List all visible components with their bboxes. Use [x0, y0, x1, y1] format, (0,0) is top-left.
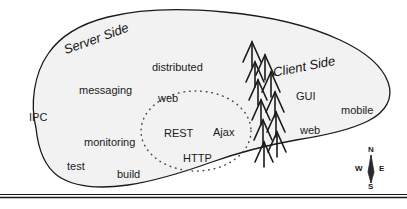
- term-gui: GUI: [296, 91, 316, 102]
- term-web-shared: web: [158, 93, 178, 104]
- term-monitoring: monitoring: [84, 137, 135, 148]
- compass-label-west: W: [355, 165, 363, 173]
- term-rest: REST: [164, 128, 193, 139]
- term-http: HTTP: [183, 153, 212, 164]
- term-test: test: [67, 161, 85, 172]
- term-build: build: [117, 169, 140, 180]
- term-ajax: Ajax: [213, 127, 234, 138]
- term-messaging: messaging: [79, 85, 132, 96]
- term-ipc: IPC: [29, 112, 47, 123]
- compass-needle-icon: [368, 155, 374, 183]
- compass-label-north: N: [368, 146, 374, 154]
- compass-label-south: S: [368, 183, 373, 191]
- term-web-client: web: [300, 125, 320, 136]
- compass-label-east: E: [379, 165, 384, 173]
- term-distributed: distributed: [152, 62, 203, 73]
- term-mobile: mobile: [341, 105, 373, 116]
- technology-landscape-map: Server Side Client Side distributed mess…: [0, 0, 407, 209]
